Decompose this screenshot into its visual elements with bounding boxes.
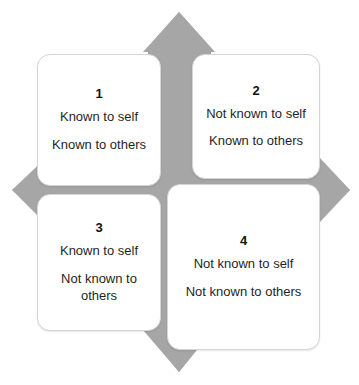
quadrant-others-line-1: Known to others [52, 136, 146, 153]
quadrant-others-line-2: Known to others [209, 132, 303, 149]
quadrant-card-3[interactable]: 3 Known to self Not known to others [37, 194, 161, 331]
quadrant-number-3: 3 [95, 221, 102, 235]
quadrant-self-line-3: Known to self [60, 242, 138, 259]
johari-window-diagram: 1 Known to self Known to others 2 Not kn… [0, 0, 359, 385]
quadrant-self-line-1: Known to self [60, 108, 138, 125]
quadrant-number-1: 1 [95, 87, 102, 101]
quadrant-card-1[interactable]: 1 Known to self Known to others [37, 54, 161, 186]
quadrant-self-line-4: Not known to self [194, 255, 294, 272]
quadrant-card-2[interactable]: 2 Not known to self Known to others [192, 54, 320, 179]
quadrant-number-4: 4 [240, 234, 247, 248]
quadrant-others-line-3: Not known to others [46, 270, 152, 304]
quadrant-self-line-2: Not known to self [206, 105, 306, 122]
quadrant-card-4[interactable]: 4 Not known to self Not known to others [167, 184, 320, 350]
quadrant-others-line-4: Not known to others [186, 283, 302, 300]
quadrant-number-2: 2 [252, 84, 259, 98]
